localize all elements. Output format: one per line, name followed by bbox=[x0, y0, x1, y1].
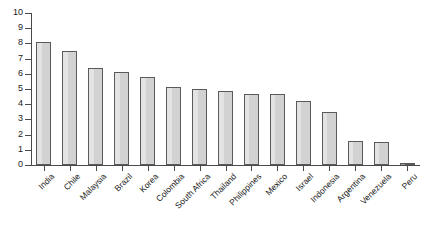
x-axis-category-label: India bbox=[37, 172, 56, 191]
x-axis-tick bbox=[96, 166, 97, 171]
x-axis-category-label: Peru bbox=[400, 172, 419, 191]
plot-area bbox=[31, 13, 420, 165]
y-axis-tick-label: 3 bbox=[0, 114, 23, 123]
bar-highlight bbox=[245, 95, 250, 164]
bar-highlight bbox=[37, 43, 42, 164]
bar bbox=[270, 94, 285, 165]
x-axis-category-label: Chile bbox=[62, 172, 82, 192]
bar-highlight bbox=[193, 90, 198, 164]
bar bbox=[140, 77, 155, 165]
bar bbox=[296, 101, 311, 165]
x-axis-tick bbox=[381, 166, 382, 171]
x-axis-tick bbox=[200, 166, 201, 171]
x-axis-tick bbox=[226, 166, 227, 171]
bar bbox=[192, 89, 207, 165]
x-axis-tick bbox=[251, 166, 252, 171]
x-axis-category-label: Mexico bbox=[264, 172, 289, 197]
y-axis-tick-label: 4 bbox=[0, 99, 23, 108]
x-axis-tick bbox=[70, 166, 71, 171]
bar bbox=[166, 87, 181, 165]
bar-highlight bbox=[323, 113, 328, 164]
bar-highlight bbox=[63, 52, 68, 164]
x-axis-category-label: Korea bbox=[138, 172, 160, 194]
y-axis-tick-label: 7 bbox=[0, 54, 23, 63]
y-axis-tick-label: 2 bbox=[0, 130, 23, 139]
bar-highlight bbox=[141, 78, 146, 164]
bar bbox=[62, 51, 77, 165]
y-axis-tick-label: 8 bbox=[0, 38, 23, 47]
bar-highlight bbox=[115, 73, 120, 164]
y-axis-tick-label: 9 bbox=[0, 23, 23, 32]
y-axis-tick-label: 0 bbox=[0, 160, 23, 169]
bar-highlight bbox=[219, 92, 224, 164]
bar-highlight bbox=[271, 95, 276, 164]
bar bbox=[218, 91, 233, 165]
bar-highlight bbox=[89, 69, 94, 164]
bar-highlight bbox=[375, 143, 380, 164]
x-axis-tick bbox=[44, 166, 45, 171]
x-axis-tick bbox=[355, 166, 356, 171]
bar bbox=[244, 94, 259, 165]
bar bbox=[114, 72, 129, 165]
y-axis-tick-label: 5 bbox=[0, 84, 23, 93]
bar bbox=[374, 142, 389, 165]
x-axis-tick bbox=[303, 166, 304, 171]
x-axis-category-label: Brazil bbox=[113, 172, 134, 193]
bar-chart: 012345678910 IndiaChileMalaysiaBrazilKor… bbox=[0, 0, 424, 229]
bar-highlight bbox=[167, 88, 172, 164]
y-axis-tick-label: 6 bbox=[0, 69, 23, 78]
x-axis-tick bbox=[277, 166, 278, 171]
y-axis-tick-label: 10 bbox=[0, 8, 23, 17]
x-axis-tick bbox=[122, 166, 123, 171]
x-axis-category-label: Israel bbox=[295, 172, 316, 193]
bar-highlight bbox=[297, 102, 302, 164]
x-axis-tick bbox=[174, 166, 175, 171]
x-axis-tick bbox=[148, 166, 149, 171]
bar bbox=[348, 141, 363, 165]
x-axis-tick bbox=[329, 166, 330, 171]
x-axis-category-label: Malaysia bbox=[78, 172, 108, 202]
bar-highlight bbox=[349, 142, 354, 164]
y-axis-tick bbox=[25, 165, 31, 166]
bar bbox=[400, 163, 415, 165]
x-axis-tick bbox=[407, 166, 408, 171]
bar bbox=[36, 42, 51, 165]
bar bbox=[88, 68, 103, 165]
y-axis-tick-label: 1 bbox=[0, 145, 23, 154]
bar bbox=[322, 112, 337, 165]
